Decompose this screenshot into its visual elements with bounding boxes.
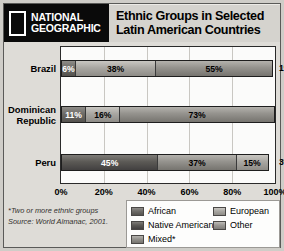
bar-segment-mixed: 37% [157,155,235,170]
legend-swatch-other [213,221,226,230]
logo-line-2: GEOGRAPHIC [31,23,101,34]
legend-item-mixed[interactable]: Mixed* [131,234,209,244]
footnote-line-2: Source: World Almanac, 2001. [8,217,138,228]
segment-value-label: 55% [205,64,222,74]
category-label-line: Peru [4,158,56,169]
axis-tick-label: 40% [138,187,156,197]
segment-value-label: 15% [244,158,261,168]
legend-swatch-native [131,221,144,230]
legend-row: Native AmericanOther [131,218,275,232]
legend-label: Native American [148,220,214,230]
legend-item-other[interactable]: Other [213,220,253,230]
bar-row: 45%37%15% [61,154,275,171]
outside-value-label: 3% [279,157,284,167]
bar-segment-african: 6% [62,61,75,76]
segment-value-label: 16% [94,110,111,120]
bar-row: 11%16%73% [61,106,275,123]
chart-title: Ethnic Groups in Selected Latin American… [109,4,280,42]
legend-label: Other [230,220,253,230]
bar-segment-native: 45% [62,155,157,170]
legend-label: Mixed* [148,234,176,244]
legend-swatch-european [213,207,226,216]
footnote-line-1: *Two or more ethnic groups [8,206,138,217]
bar-segment-european: 38% [75,61,156,76]
title-line-1: Ethnic Groups in Selected [116,10,280,23]
legend-item-european[interactable]: European [213,206,269,216]
category-label-line: Brazil [4,64,56,75]
category-label-line: Republic [4,116,56,127]
legend-row: Mixed* [131,232,275,246]
category-label-dominican-republic: DominicanRepublic [4,105,56,126]
plot-area: 6%38%55%11%16%73%45%37%15% [60,46,276,184]
segment-value-label: 73% [188,110,205,120]
stacked-bar: 45%37%15% [61,154,269,171]
axis-tick-label: 60% [180,187,198,197]
chart-header: NATIONAL GEOGRAPHIC Ethnic Groups in Sel… [4,4,280,42]
value-axis: 0%20%40%60%80%100% [60,187,276,201]
footnote: *Two or more ethnic groups Source: World… [8,206,138,227]
stacked-bar: 6%38%55% [61,60,273,77]
national-geographic-rectangle-icon [9,11,26,36]
legend-item-native[interactable]: Native American [131,220,209,230]
legend-label: African [148,206,176,216]
chart-card: NATIONAL GEOGRAPHIC Ethnic Groups in Sel… [0,0,284,251]
segment-value-label: 37% [188,158,205,168]
category-label-brazil: Brazil [4,64,56,75]
axis-tick-label: 0% [54,187,67,197]
legend-item-african[interactable]: African [131,206,209,216]
bar-segment-european: 16% [85,107,119,122]
bar-segment-european: 15% [236,155,268,170]
segment-value-label: 38% [107,64,124,74]
bar-row: 6%38%55% [61,60,275,77]
category-label-peru: Peru [4,158,56,169]
segment-value-label: 6% [62,64,74,74]
segment-value-label: 45% [101,158,118,168]
legend-swatch-mixed [131,235,144,244]
legend-row: AfricanEuropean [131,204,275,218]
national-geographic-logo: NATIONAL GEOGRAPHIC [4,4,109,42]
title-line-2: Latin American Countries [116,24,280,37]
outside-value-label: 1% [279,63,284,73]
legend-label: European [230,206,269,216]
stacked-bar: 11%16%73% [61,106,275,123]
category-label-line: Dominican [4,105,56,116]
bar-segment-mixed: 73% [119,107,274,122]
logo-wordmark: NATIONAL GEOGRAPHIC [31,12,101,33]
axis-tick-label: 100% [263,187,284,197]
legend-swatch-african [131,207,144,216]
bar-segment-mixed: 55% [155,61,272,76]
bar-segment-african: 11% [62,107,85,122]
legend: AfricanEuropeanNative AmericanOtherMixed… [126,200,280,248]
axis-tick-label: 20% [95,187,113,197]
segment-value-label: 11% [65,110,82,120]
axis-tick-label: 80% [223,187,241,197]
